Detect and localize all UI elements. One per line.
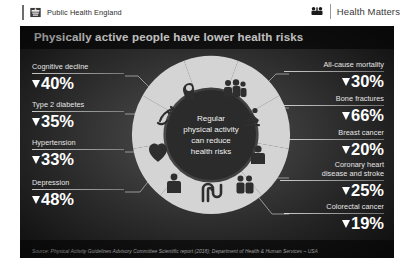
arrow-down-icon	[32, 156, 40, 164]
stat-value-row: 19%	[284, 214, 384, 233]
stat-value-row: 25%	[280, 181, 384, 200]
logo-divider	[22, 5, 24, 20]
stat-value-row: 40%	[32, 74, 124, 93]
brand-divider	[330, 4, 331, 19]
infographic-page: Public Health England Health Matters Phy…	[0, 0, 414, 272]
stat-label: Type 2 diabetes	[32, 100, 124, 109]
stat-value-row: 66%	[284, 106, 384, 125]
phe-label: Public Health England	[47, 8, 122, 17]
page-header: Public Health England Health Matters	[0, 0, 414, 26]
arrow-down-icon	[342, 78, 350, 86]
stat-colorectal-cancer: Colorectal cancer 19%	[284, 202, 384, 233]
arrow-down-icon	[32, 196, 40, 204]
stat-label: Colorectal cancer	[284, 202, 384, 211]
stat-value: 40%	[41, 74, 74, 93]
stat-value: 66%	[351, 106, 384, 125]
stat-label-line-1: Coronary heart	[280, 160, 384, 169]
stat-value-row: 30%	[284, 72, 384, 91]
stat-label: All-cause mortality	[284, 60, 384, 69]
arrow-down-icon	[32, 80, 40, 88]
stat-coronary-heart-disease-and-stroke: Coronary heart disease and stroke 25%	[280, 160, 384, 200]
brain-icon	[183, 83, 194, 100]
family-group-icon	[224, 79, 247, 97]
health-matters-brand: Health Matters	[310, 4, 400, 19]
stat-hypertension: Hypertension 33%	[32, 138, 124, 169]
stat-label-line-2: disease and stroke	[280, 169, 384, 178]
stat-label: Hypertension	[32, 138, 124, 147]
stat-value: 19%	[351, 214, 384, 233]
stat-label: Breast cancer	[284, 128, 384, 137]
stat-all-cause-mortality: All-cause mortality 30%	[284, 60, 384, 91]
stat-value: 35%	[41, 112, 74, 131]
stat-value: 25%	[351, 181, 384, 200]
stat-label: Cognitive decline	[32, 62, 124, 71]
stat-cognitive-decline: Cognitive decline 40%	[32, 62, 124, 93]
stat-type-2-diabetes: Type 2 diabetes 35%	[32, 100, 124, 131]
stat-label: Depression	[32, 178, 124, 187]
arrow-down-icon	[342, 112, 350, 120]
stat-label: Bone fractures	[284, 94, 384, 103]
stat-value-row: 35%	[32, 112, 124, 131]
stat-value: 30%	[351, 72, 384, 91]
poster-body: Physically active people have lower heal…	[20, 26, 394, 258]
stat-value: 33%	[41, 150, 74, 169]
royal-crest-icon	[29, 6, 42, 19]
public-health-england-logo: Public Health England	[22, 5, 122, 20]
stat-value-row: 48%	[32, 190, 124, 209]
health-benefit-wheel	[129, 53, 293, 217]
stat-value: 20%	[351, 140, 384, 159]
stat-value-row: 20%	[284, 140, 384, 159]
arrow-down-icon	[342, 146, 350, 154]
stat-breast-cancer: Breast cancer 20%	[284, 128, 384, 159]
stat-depression: Depression 48%	[32, 178, 124, 209]
arrow-down-icon	[32, 118, 40, 126]
health-matters-label: Health Matters	[337, 6, 400, 17]
stat-value-row: 33%	[32, 150, 124, 169]
arrow-down-icon	[342, 220, 350, 228]
stat-bone-fractures: Bone fractures 66%	[284, 94, 384, 125]
stat-value: 48%	[41, 190, 74, 209]
arrow-down-icon	[342, 187, 350, 195]
health-matters-icon	[310, 6, 324, 17]
